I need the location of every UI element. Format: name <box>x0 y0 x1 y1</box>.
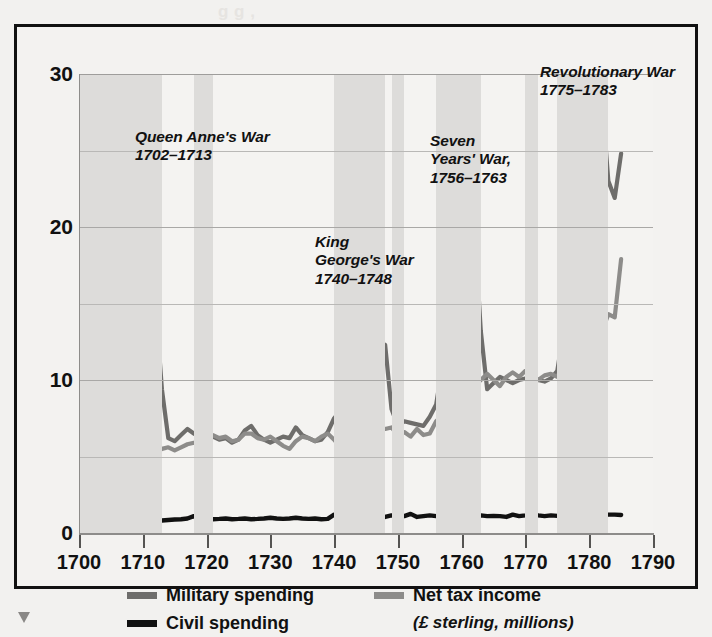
x-tick-label: 1780 <box>567 551 612 574</box>
legend-units-note: (£ sterling, millions) <box>413 613 574 633</box>
x-tick <box>525 535 527 548</box>
y-tick-label: 30 <box>50 63 73 84</box>
bleed-text: g g , <box>218 2 255 22</box>
annotation-seven-years-war: Seven Years' War, 1756–1763 <box>430 132 511 187</box>
legend-item-civil-spending: Civil spending <box>127 613 289 634</box>
x-tick <box>398 535 400 548</box>
y-tick-label: 20 <box>50 216 73 237</box>
x-tick-label: 1740 <box>312 551 357 574</box>
chart-figure: g g ,€ (cip) ahe menuum mes(evgtuo)e 100… <box>0 0 712 637</box>
chart-legend: Military spending Civil spending Net tax… <box>17 583 701 637</box>
annotation-king-georges-war: King George's War 1740–1748 <box>315 233 414 288</box>
page-caret-marker <box>18 612 30 623</box>
x-tick <box>207 535 209 548</box>
y-tick-label: 10 <box>50 369 73 390</box>
x-tick-label: 1760 <box>439 551 484 574</box>
x-axis-line <box>79 533 654 535</box>
gridline <box>79 304 653 305</box>
gridline <box>79 457 653 458</box>
legend-label-military: Military spending <box>166 585 314 606</box>
x-tick <box>270 535 272 548</box>
chart-frame: 3020100 17001710172017301740175017601770… <box>14 24 698 589</box>
x-tick <box>143 535 145 548</box>
x-tick <box>589 535 591 548</box>
legend-swatch-tax <box>374 592 404 599</box>
x-tick <box>462 535 464 548</box>
annotation-revolutionary-war: Revolutionary War 1775–1783 <box>540 63 675 100</box>
legend-label-civil: Civil spending <box>166 613 289 634</box>
gridline <box>79 227 653 228</box>
annotation-queen-annes-war: Queen Anne's War 1702–1713 <box>135 128 270 165</box>
x-tick-label: 1710 <box>121 551 166 574</box>
x-tick-label: 1720 <box>184 551 229 574</box>
legend-swatch-military <box>127 592 157 599</box>
legend-item-net-tax-income: Net tax income <box>374 585 541 606</box>
legend-label-tax: Net tax income <box>413 585 541 606</box>
legend-item-military-spending: Military spending <box>127 585 314 606</box>
x-tick-label: 1730 <box>248 551 293 574</box>
x-tick-label: 1790 <box>631 551 676 574</box>
x-tick <box>653 535 655 548</box>
x-tick-label: 1750 <box>376 551 421 574</box>
y-axis-labels: 3020100 <box>17 27 73 592</box>
legend-swatch-civil <box>127 620 157 627</box>
x-tick-label: 1770 <box>503 551 548 574</box>
gridline <box>79 380 653 381</box>
y-axis-line <box>79 74 80 533</box>
x-tick <box>79 535 81 548</box>
x-tick <box>334 535 336 548</box>
y-tick-label: 0 <box>61 522 73 543</box>
x-tick-label: 1700 <box>57 551 102 574</box>
